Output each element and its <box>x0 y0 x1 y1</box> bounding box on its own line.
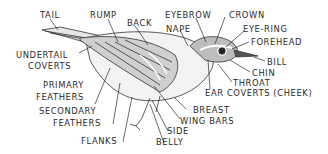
label-belly: BELLY <box>156 137 183 147</box>
label-chin: CHIN <box>252 68 275 78</box>
label-throat: THROAT <box>233 78 270 88</box>
label-eyebrow: EYEBROW <box>165 10 211 20</box>
label-back: BACK <box>127 18 152 28</box>
label-wing-bars: WING BARS <box>180 116 234 126</box>
label-crown: CROWN <box>229 10 265 20</box>
label-side: SIDE <box>167 126 189 136</box>
label-bill: BILL <box>267 57 287 67</box>
label-primary-feathers-line1: PRIMARY <box>43 80 84 90</box>
label-primary-feathers-line2: FEATHERS <box>36 92 84 102</box>
label-flanks: FLANKS <box>81 136 117 146</box>
bird-anatomy-diagram: TAIL RUMP BACK EYEBROW NAPE CROWN EYE-RI… <box>0 0 328 154</box>
label-secondary-feathers-line2: FEATHERS <box>53 118 101 128</box>
label-nape: NAPE <box>166 24 191 34</box>
label-secondary-feathers-line1: SECONDARY <box>39 106 96 116</box>
label-undertail-coverts-line1: UNDERTAIL <box>16 50 68 60</box>
label-undertail-coverts-line2: COVERTS <box>28 61 71 71</box>
label-forehead: FOREHEAD <box>251 37 302 47</box>
label-rump: RUMP <box>90 10 117 20</box>
label-ear-coverts: EAR COVERTS (CHEEK) <box>205 88 312 98</box>
label-breast: BREAST <box>193 105 230 115</box>
label-eye-ring: EYE-RING <box>243 24 288 34</box>
label-tail: TAIL <box>40 10 60 20</box>
